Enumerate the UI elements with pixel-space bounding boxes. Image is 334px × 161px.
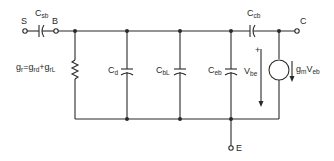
circuit-diagram: S B C E Csb Ccb Cd CbL Ceb + Vbe gmVeb g… (0, 0, 334, 161)
gm-veb-label: gmVeb (296, 65, 320, 76)
junction-dot (229, 117, 233, 121)
ccb-label: Ccb (247, 9, 260, 20)
current-source-circle (269, 60, 289, 80)
terminal-s-node (23, 29, 27, 33)
terminal-b-node (54, 29, 58, 33)
terminal-b-label: B (52, 17, 58, 26)
vbe-plus-label: + (255, 46, 260, 55)
junction-dot (178, 29, 182, 33)
junction-dot (125, 29, 129, 33)
junction-dot (229, 29, 233, 33)
terminal-s-label: S (21, 17, 27, 26)
cbl-label: CbL (156, 66, 170, 77)
junction-dot (73, 29, 77, 33)
cd-label: Cd (108, 66, 118, 77)
junction-dot (125, 117, 129, 121)
terminal-c-label: C (300, 17, 307, 26)
junction-dot (277, 29, 281, 33)
gm-arrowhead (290, 76, 295, 82)
ceb-label: Ceb (208, 66, 222, 77)
terminal-e-node (229, 146, 233, 150)
gr-resistor (72, 60, 78, 79)
circuit-schematic (0, 0, 334, 161)
gr-equation-label: gr=grd+grL (16, 63, 55, 74)
vbe-arrowhead (259, 101, 264, 107)
csb-label: Csb (35, 9, 48, 20)
terminal-c-node (295, 29, 299, 33)
vbe-label: Vbe (244, 67, 257, 78)
terminal-e-label: E (236, 144, 242, 153)
junction-dot (178, 117, 182, 121)
